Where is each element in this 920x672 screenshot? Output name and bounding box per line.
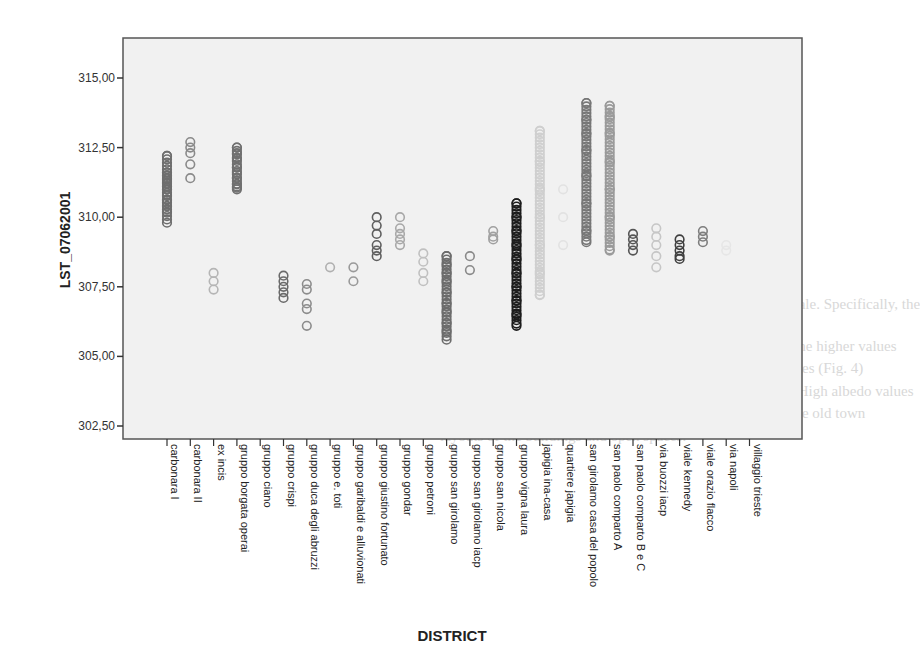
x-tick-label: san paolo comparto A [612, 444, 624, 551]
y-tick-label: 310,00 [78, 210, 115, 224]
series-san-girolamo-casa-del-popolo [582, 99, 591, 247]
x-tick-label: japigia ina-casa [542, 443, 554, 521]
x-tick-label: san paolo comparto B e C [635, 444, 647, 571]
series-san-paolo-comparto-a [605, 102, 614, 255]
x-tick-label: gruppo ciano [262, 444, 274, 508]
x-tick-label: via buozzi iacp [658, 444, 670, 516]
y-axis: 302,50305,00307,50310,00312,50315,00 [78, 71, 123, 433]
x-tick-label: san girolamo casa del popolo [588, 444, 600, 587]
series-gruppo-vigna-laura [512, 199, 521, 330]
x-axis: carbonara Icarbonara IIex incisgruppo bo… [167, 439, 764, 587]
y-tick-label: 312,50 [78, 141, 115, 155]
x-tick-label: gruppo crispi [286, 444, 298, 507]
x-tick-label: gruppo petroni [425, 444, 437, 515]
y-axis-title: LST_07062001 [57, 192, 73, 289]
x-tick-label: gruppo vigna laura [519, 444, 531, 536]
x-tick-label: carbonara II [192, 444, 204, 503]
x-tick-label: gruppo borgata operai [239, 444, 251, 552]
y-tick-label: 305,00 [78, 349, 115, 363]
x-tick-label: gruppo duca degli abruzzi [309, 444, 321, 570]
x-tick-label: ex incis [216, 444, 228, 481]
x-tick-label: viale orazio flacco [705, 444, 717, 531]
x-tick-label: via napoli [728, 444, 740, 490]
x-tick-label: gruppo san nicola [495, 444, 507, 532]
x-tick-label: gruppo san girolamo iacp [472, 444, 484, 568]
x-tick-label: gruppo gondar [402, 444, 414, 516]
x-tick-label: gruppo san girolamo [449, 444, 461, 544]
x-tick-label: gruppo giustino fortunato [379, 444, 391, 566]
y-tick-label: 302,50 [78, 419, 115, 433]
x-tick-label: viale kennedy [682, 444, 694, 512]
x-tick-label: gruppo garibaldi e alluvionati [355, 444, 367, 584]
x-tick-label: quartiere japigia [565, 444, 577, 523]
x-tick-label: gruppo e. toti [332, 444, 344, 508]
x-tick-label: carbonara I [169, 444, 181, 500]
x-tick-label: villaggio trieste [752, 444, 764, 517]
y-tick-label: 315,00 [78, 71, 115, 85]
y-tick-label: 307,50 [78, 280, 115, 294]
x-axis-title: DISTRICT [417, 627, 486, 644]
